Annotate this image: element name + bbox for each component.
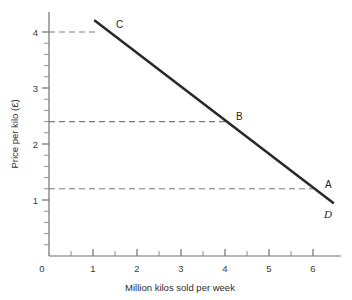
y-tick-label-4: 4 [33,27,38,38]
x-tick-label-3: 3 [178,263,183,274]
x-tick-label-1: 1 [90,263,95,274]
x-axis-title: Million kilos sold per week [125,282,235,293]
x-tick-label-4: 4 [222,263,227,274]
origin-label: 0 [39,263,44,274]
point-label-b: B [236,111,243,122]
y-tick-label-3: 3 [33,83,38,94]
demand-curve-chart: 1 2 3 4 0 1 2 3 4 5 6 C B A D Million ki… [0,0,352,300]
demand-curve-line [95,21,333,203]
chart-canvas: 1 2 3 4 0 1 2 3 4 5 6 C B A D Million ki… [0,0,352,300]
x-tick-label-6: 6 [310,263,315,274]
x-tick-label-2: 2 [134,263,139,274]
y-axis-title: Price per kilo (£) [9,99,20,168]
point-label-c: C [116,19,123,30]
y-tick-label-2: 2 [33,139,38,150]
y-tick-label-1: 1 [33,195,38,206]
curve-label-d: D [323,208,332,220]
x-tick-label-5: 5 [266,263,271,274]
point-label-a: A [325,179,332,190]
